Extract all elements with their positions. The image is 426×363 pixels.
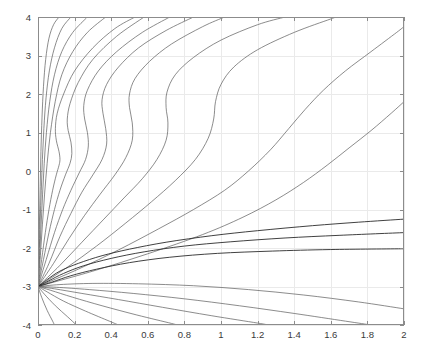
x-tick-label-5: 1 [218, 329, 223, 340]
x-tick-label-4: 0.8 [178, 329, 191, 340]
x-tick-label-7: 1.4 [288, 329, 301, 340]
x-tick-label-6: 1.2 [251, 329, 264, 340]
chart-canvas: 00.20.40.60.811.21.41.61.82 -4-3-2-10123… [0, 0, 426, 363]
x-tick-label-3: 0.6 [141, 329, 154, 340]
y-tick-label-2: -2 [23, 243, 31, 254]
y-tick-label-3: -1 [23, 204, 31, 215]
x-tick-label-1: 0.2 [68, 329, 81, 340]
y-tick-label-5: 1 [26, 127, 31, 138]
y-tick-label-7: 3 [26, 50, 31, 61]
x-tick-label-2: 0.4 [105, 329, 118, 340]
x-tick-label-8: 1.6 [324, 329, 337, 340]
y-tick-label-1: -3 [23, 281, 31, 292]
y-tick-label-0: -4 [23, 320, 31, 331]
x-tick-label-9: 1.8 [361, 329, 374, 340]
x-tick-label-10: 2 [401, 329, 406, 340]
y-tick-label-6: 2 [26, 89, 31, 100]
figure-container: 00.20.40.60.811.21.41.61.82 -4-3-2-10123… [0, 0, 426, 363]
y-tick-label-8: 4 [26, 12, 31, 23]
y-tick-label-4: 0 [26, 166, 31, 177]
x-tick-label-0: 0 [35, 329, 40, 340]
